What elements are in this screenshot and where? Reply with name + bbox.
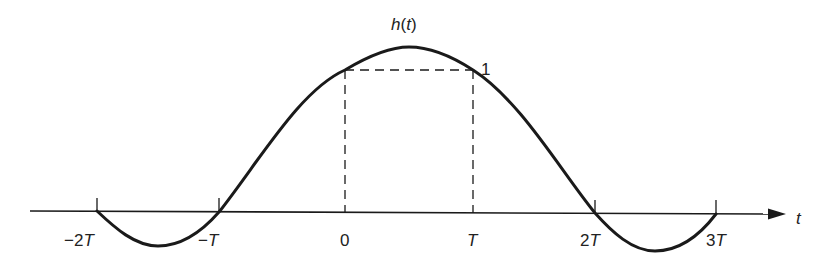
pulse-response-diagram: h(t) 1 t −2T −T 0 T 2T 3T <box>0 0 825 275</box>
tick-label-minus-2t: −2T <box>64 231 95 250</box>
time-axis <box>30 211 772 214</box>
value-one-label: 1 <box>481 60 490 79</box>
tick-label-t: T <box>467 231 479 250</box>
tick-label-3t: 3T <box>706 231 727 250</box>
tick-label-2t: 2T <box>580 231 601 250</box>
tick-label-zero: 0 <box>340 231 349 250</box>
axis-t-label: t <box>796 209 802 228</box>
axis-arrow-icon <box>768 209 786 220</box>
h-t-curve <box>97 47 716 251</box>
curve-label: h(t) <box>391 15 417 34</box>
dashed-guides <box>345 70 473 213</box>
tick-label-minus-t: −T <box>198 231 220 250</box>
